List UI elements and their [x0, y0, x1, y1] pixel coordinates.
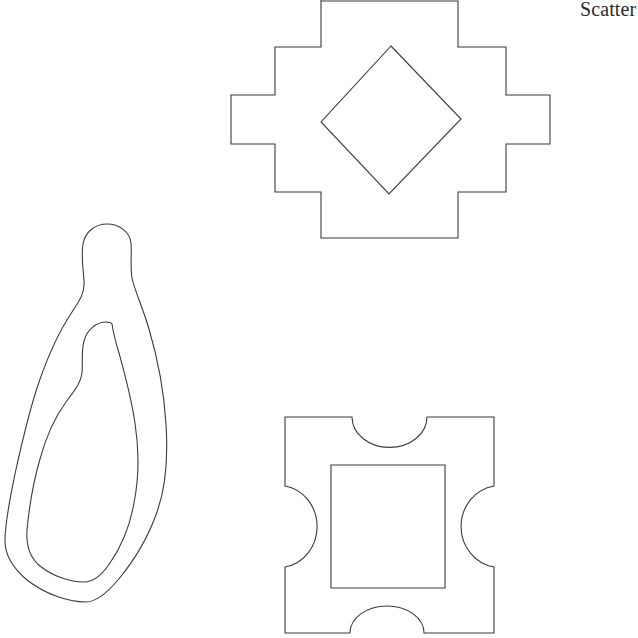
stepped-cross-outline — [231, 0, 550, 238]
inner-diamond-outline — [321, 46, 461, 194]
figure-title: Scatter — [580, 0, 638, 20]
figure-root: Scatter — [0, 0, 638, 638]
inner-square-outline — [331, 465, 445, 588]
outer-blob-outline — [5, 224, 167, 602]
inner-blob-outline — [27, 322, 138, 582]
notched-square-outline — [285, 417, 494, 633]
figure-canvas — [0, 0, 638, 638]
